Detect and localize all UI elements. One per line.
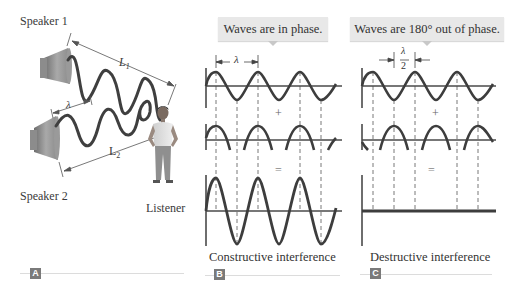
half-wavelength-denominator: 2 bbox=[401, 60, 406, 71]
wave-c-2 bbox=[362, 126, 493, 150]
panel-c-caption: Destructive interference bbox=[370, 250, 490, 265]
equals-sign-c: = bbox=[428, 163, 435, 178]
plus-sign-c: + bbox=[432, 106, 439, 121]
half-wavelength-numerator: λ bbox=[401, 45, 405, 56]
panel-c-tag: C bbox=[370, 268, 381, 279]
